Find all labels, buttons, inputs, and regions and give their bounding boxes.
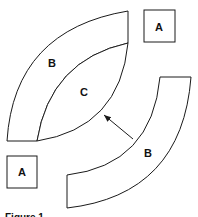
figure-caption: Figure 1 [5,212,44,217]
label-c: C [80,86,88,98]
label-b-top: B [48,57,56,69]
label-b-bottom: B [144,147,152,159]
quilt-pattern-diagram: A A B C B Figure 1 [0,0,198,217]
label-a-top-right: A [155,21,163,33]
label-a-bottom-left: A [18,166,26,178]
placement-arrow [104,115,133,139]
